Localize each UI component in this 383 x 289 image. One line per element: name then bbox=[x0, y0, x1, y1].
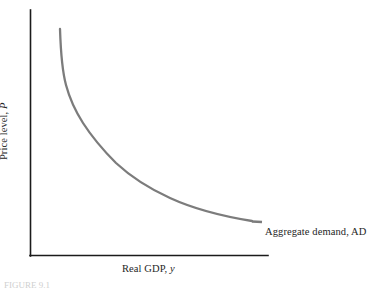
figure-caption-cropped: FIGURE 9.1 bbox=[4, 281, 50, 289]
aggregate-demand-curve-label: Aggregate demand, AD bbox=[265, 227, 366, 238]
x-axis-label-variable: y bbox=[170, 263, 175, 274]
diagram-svg bbox=[0, 0, 383, 289]
figure-canvas: Real GDP, y Price level, P Aggregate dem… bbox=[0, 0, 383, 289]
x-axis-label-text: Real GDP, bbox=[122, 263, 170, 274]
x-axis-label: Real GDP, y bbox=[122, 264, 175, 275]
y-axis-label-variable: P bbox=[0, 102, 9, 109]
aggregate-demand-curve bbox=[60, 29, 252, 221]
y-axis-label-text: Price level, bbox=[0, 109, 9, 160]
curve-label-leader-line bbox=[252, 222, 262, 223]
y-axis-label: Price level, P bbox=[0, 89, 9, 173]
